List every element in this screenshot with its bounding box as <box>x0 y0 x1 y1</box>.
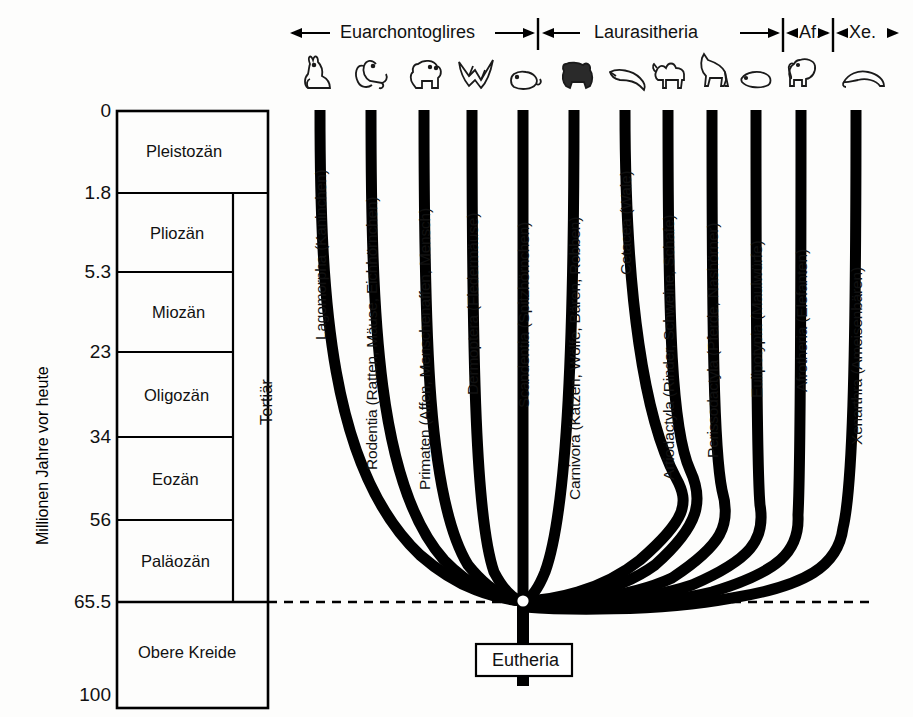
tick-label-56: 56 <box>46 509 111 531</box>
tree-svg-layer <box>0 0 913 717</box>
squirrel-icon <box>356 61 387 88</box>
tree-branches <box>320 110 856 686</box>
anteater-icon <box>843 71 884 87</box>
camel-icon <box>653 64 684 89</box>
epoch-miozaen: Miozän <box>152 303 205 322</box>
figure-canvas: Millionen Jahre vor heute 0 1.8 5.3 23 3… <box>0 0 913 717</box>
epoch-pleistozaen: Pleistozän <box>146 142 222 161</box>
clade-label-lagomorpha: Lagomorpha (Kaninchen) <box>312 169 330 340</box>
clade-label-afrotheria: Afrotheria (Elefanten) <box>793 249 811 392</box>
epoch-obere-kreide: Obere Kreide <box>138 643 236 662</box>
whale-icon <box>610 70 645 90</box>
period-tertiaer: Tertiär <box>257 379 276 425</box>
tick-label-65-5: 65.5 <box>34 591 111 613</box>
root-node-circle <box>517 595 528 606</box>
epoch-pliozaen: Pliozän <box>150 224 204 243</box>
clade-label-artiodactyla: Artiodactyla (Rinder, Schweine, Schafe) <box>660 215 678 480</box>
clade-label-eulipotypia: Eulipotypia (Maulwürfe) <box>748 241 766 398</box>
epoch-palaeozaen: Paläozän <box>141 552 210 571</box>
animal-icon-row <box>305 54 884 90</box>
elephant-icon <box>789 59 815 86</box>
clade-label-scandentia: Scandentia (Spitzhörnchen) <box>515 222 533 408</box>
root-label-eutheria: Eutheria <box>492 650 559 671</box>
mole-icon <box>741 72 770 87</box>
group-label-laurasitheria: Laurasitheria <box>594 22 698 43</box>
clade-label-rodentia: Rodentia (Ratten, Mäuse, Eichhörnchen) <box>363 197 381 470</box>
clade-label-dermoptera: Dermoptera (Fledermäuse) <box>464 213 482 395</box>
tick-label-0: 0 <box>56 100 111 122</box>
bat-icon <box>459 60 493 88</box>
gorilla-icon <box>411 61 441 88</box>
clade-label-cetacea: Cetacea (Wale) <box>617 171 635 275</box>
horse-icon <box>701 54 728 86</box>
group-label-xe: Xe. <box>849 22 876 43</box>
clade-label-carnivora: Carnivora (Katzen, Wölfe, Bären, Robben) <box>566 217 584 500</box>
tick-label-5-3: 5.3 <box>46 261 111 283</box>
treeshrew-icon <box>511 72 541 89</box>
clade-label-primaten: Primaten (Affen, Menschenaffen, Mensch) <box>416 208 434 490</box>
bear-icon <box>563 63 592 88</box>
rabbit-icon <box>305 56 330 88</box>
timescale-column <box>117 111 268 708</box>
tick-label-1-8: 1.8 <box>46 182 111 204</box>
clade-label-xenarthra: Xenarthra (Ameisenbären) <box>848 267 866 445</box>
epoch-oligozaen: Oligozän <box>144 386 209 405</box>
tick-label-34: 34 <box>46 426 111 448</box>
tick-label-23: 23 <box>46 341 111 363</box>
clade-label-perissodactyla: Perissodactyla (Pferde, Nashörner) <box>704 223 722 458</box>
tick-label-100: 100 <box>46 684 111 706</box>
group-label-af: Af. <box>799 22 821 43</box>
group-label-euarchontoglires: Euarchontoglires <box>340 22 475 43</box>
epoch-eozaen: Eozän <box>152 470 199 489</box>
